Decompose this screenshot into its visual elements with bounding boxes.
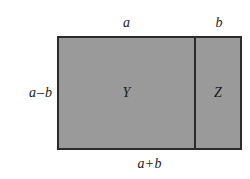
dimension-left-term-1: a	[29, 85, 36, 100]
dimension-left-operator: –	[36, 85, 45, 100]
region-y-label: Y	[123, 86, 131, 100]
dimension-label-left: a–b	[0, 86, 52, 100]
dimension-left-term-2: b	[45, 85, 52, 100]
dimension-label-top-a: a	[57, 16, 196, 30]
composite-rectangle: Y Z	[57, 36, 242, 150]
region-y: Y	[59, 38, 196, 148]
region-z: Z	[196, 38, 240, 148]
dimension-label-bottom: a+b	[57, 157, 242, 171]
dimension-bottom-term-2: b	[154, 156, 161, 171]
dimension-label-top-b: b	[196, 16, 242, 30]
dimension-bottom-operator: +	[145, 156, 155, 171]
diagram-canvas: a b a–b Y Z a+b	[0, 0, 250, 179]
region-z-label: Z	[214, 86, 222, 100]
dimension-bottom-term-1: a	[138, 156, 145, 171]
